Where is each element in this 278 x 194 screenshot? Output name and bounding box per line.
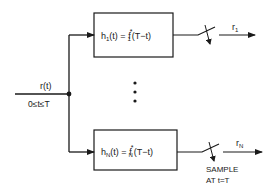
- output-n-label: rN: [236, 138, 243, 149]
- sampler-actuator-1: [205, 25, 210, 44]
- sample-label-line1: SAMPLE: [206, 165, 238, 174]
- sample-label-line2: AT t=T: [206, 176, 230, 185]
- ellipsis-dot: [133, 81, 136, 84]
- matched-filter-diagram: r(t) 0≤t≤T h1(t) = f*1(T−t) hN(t) = f*N(…: [0, 0, 278, 194]
- ellipsis-dot: [133, 90, 136, 93]
- input-signal-label: r(t): [40, 81, 52, 91]
- filter-n-equation: hN(t) = f*N(T−t): [101, 144, 153, 158]
- output-1-label: r1: [232, 22, 239, 33]
- sampler-switch-1: [173, 27, 215, 35]
- sampler-switch-n: [177, 144, 219, 152]
- ellipsis-dot: [133, 99, 136, 102]
- sampler-actuator-n: [209, 142, 214, 161]
- filter-1-equation: h1(t) = f*1(T−t): [101, 28, 151, 42]
- input-range-label: 0≤t≤T: [28, 99, 50, 109]
